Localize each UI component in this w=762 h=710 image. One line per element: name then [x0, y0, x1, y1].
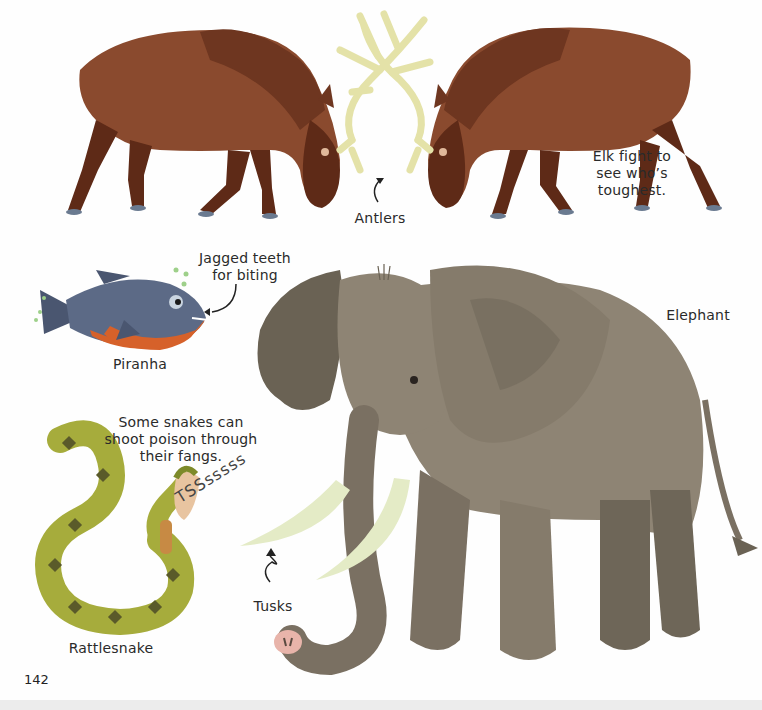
elk-caption: Elk fight to see who’s toughest.: [562, 148, 702, 199]
illustrations: [0, 0, 762, 700]
snake-note-line-2: shoot poison through: [96, 431, 266, 448]
piranha-note-line-2: for biting: [190, 267, 300, 284]
page-edge: [0, 700, 762, 710]
book-page: Antlers Elk fight to see who’s toughest.…: [0, 0, 762, 700]
tusks-pointer-arrow: [265, 556, 276, 582]
piranha-name: Piranha: [100, 356, 180, 373]
elk-caption-line-1: Elk fight to: [562, 148, 702, 165]
elephant-name: Elephant: [658, 307, 738, 324]
piranha-illustration: [34, 268, 208, 351]
antlers-pointer-arrow: [374, 180, 380, 202]
tusks-label: Tusks: [248, 598, 298, 615]
page-number: 142: [24, 672, 49, 687]
piranha-pointer-arrow: [212, 284, 236, 312]
rattlesnake-name: Rattlesnake: [56, 640, 166, 657]
piranha-note: Jagged teeth for biting: [190, 250, 300, 284]
elk-caption-line-3: toughest.: [562, 182, 702, 199]
antlers-illustration: [340, 14, 430, 170]
snake-note-line-1: Some snakes can: [96, 414, 266, 431]
elk-left-illustration: [66, 29, 340, 219]
antlers-label: Antlers: [352, 210, 408, 227]
elk-caption-line-2: see who’s: [562, 165, 702, 182]
rattle: [160, 520, 172, 554]
piranha-note-line-1: Jagged teeth: [190, 250, 300, 267]
